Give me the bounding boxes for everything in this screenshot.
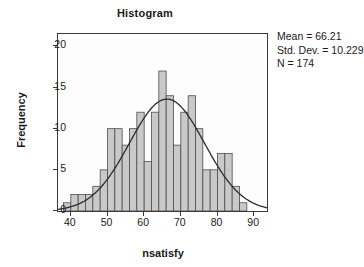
histogram-bar — [166, 96, 173, 211]
histogram-bar — [144, 162, 151, 211]
histogram-bar — [174, 145, 181, 211]
std-dev-statistic: Std. Dev. = 10.229 — [277, 44, 364, 58]
x-tick-label: 60 — [131, 216, 155, 228]
y-tick-label: 0 — [40, 204, 66, 214]
histogram-bar — [115, 129, 122, 211]
mean-statistic: Mean = 66.21 — [277, 30, 364, 44]
histogram-bar — [86, 195, 93, 211]
histogram-bar — [152, 112, 159, 211]
x-tick-label: 40 — [58, 216, 82, 228]
histogram-bar — [218, 153, 225, 211]
x-tick-label: 50 — [95, 216, 119, 228]
y-tick-label: 10 — [40, 122, 66, 132]
x-axis-title: nsatisfy — [57, 247, 269, 259]
histogram-bar — [210, 170, 217, 211]
x-tick-label: 90 — [241, 216, 265, 228]
histogram-bar — [203, 170, 210, 211]
x-tick-label: 70 — [168, 216, 192, 228]
histogram-bar — [100, 170, 107, 211]
plot-area — [57, 33, 268, 212]
plot-svg — [58, 34, 267, 211]
histogram-bar — [188, 96, 195, 211]
y-tick-label: 15 — [40, 81, 66, 91]
histogram-bar — [159, 71, 166, 211]
histogram-bar — [240, 203, 247, 211]
histogram-bar — [196, 129, 203, 211]
chart-title: Histogram — [0, 7, 290, 19]
x-tick-label: 80 — [205, 216, 229, 228]
histogram-bar — [181, 112, 188, 211]
statistics-annotation: Mean = 66.21 Std. Dev. = 10.229 N = 174 — [277, 30, 364, 71]
n-statistic: N = 174 — [277, 57, 364, 71]
histogram-bar — [71, 195, 78, 211]
histogram-bars — [64, 71, 247, 211]
y-tick-label: 20 — [40, 39, 66, 49]
y-axis-title: Frequency — [15, 50, 27, 190]
y-tick-label: 5 — [40, 163, 66, 173]
